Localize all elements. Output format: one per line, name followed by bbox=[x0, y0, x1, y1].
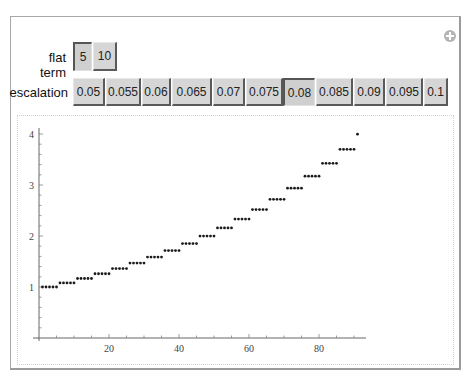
data-point bbox=[335, 162, 338, 165]
data-point bbox=[90, 277, 93, 280]
data-point bbox=[157, 256, 160, 259]
data-point bbox=[279, 198, 282, 201]
data-point bbox=[185, 242, 188, 245]
data-point bbox=[342, 148, 345, 151]
data-point bbox=[48, 286, 51, 289]
data-point bbox=[216, 226, 219, 229]
data-point bbox=[171, 249, 174, 252]
data-point bbox=[206, 235, 209, 238]
data-point bbox=[69, 282, 72, 285]
data-point bbox=[146, 256, 149, 259]
data-point bbox=[314, 175, 317, 178]
data-point bbox=[283, 198, 286, 201]
data-point bbox=[80, 277, 83, 280]
data-point bbox=[255, 208, 258, 211]
data-point bbox=[136, 262, 139, 265]
data-point bbox=[290, 187, 293, 190]
data-point bbox=[94, 272, 97, 275]
data-point bbox=[269, 198, 272, 201]
data-point bbox=[265, 208, 268, 211]
data-point bbox=[318, 175, 321, 178]
data-point bbox=[262, 208, 265, 211]
data-point bbox=[209, 235, 212, 238]
data-point bbox=[55, 286, 58, 289]
data-point bbox=[332, 162, 335, 165]
data-point bbox=[188, 242, 191, 245]
x-tick-label: 80 bbox=[314, 343, 324, 354]
data-point bbox=[237, 218, 240, 221]
data-point bbox=[304, 175, 307, 178]
y-tick-label: 2 bbox=[29, 231, 34, 242]
data-point bbox=[160, 256, 163, 259]
data-point bbox=[41, 286, 44, 289]
data-point bbox=[244, 218, 247, 221]
data-point bbox=[356, 133, 359, 136]
data-point bbox=[192, 242, 195, 245]
data-point bbox=[272, 198, 275, 201]
data-point bbox=[150, 256, 153, 259]
data-point bbox=[129, 262, 132, 265]
data-point bbox=[328, 162, 331, 165]
data-point bbox=[258, 208, 261, 211]
data-point bbox=[101, 272, 104, 275]
data-point bbox=[125, 267, 128, 270]
data-point bbox=[118, 267, 121, 270]
data-point bbox=[174, 249, 177, 252]
data-point bbox=[59, 282, 62, 285]
data-point bbox=[122, 267, 125, 270]
data-point bbox=[104, 272, 107, 275]
data-point bbox=[111, 267, 114, 270]
data-point bbox=[220, 226, 223, 229]
data-point bbox=[241, 218, 244, 221]
data-point bbox=[300, 187, 303, 190]
data-point bbox=[349, 148, 352, 151]
data-point bbox=[199, 235, 202, 238]
data-point bbox=[346, 148, 349, 151]
data-point bbox=[230, 226, 233, 229]
data-point bbox=[97, 272, 100, 275]
x-tick-label: 20 bbox=[104, 343, 114, 354]
data-point bbox=[62, 282, 65, 285]
data-point bbox=[132, 262, 135, 265]
data-point bbox=[108, 272, 111, 275]
y-tick-label: 4 bbox=[29, 129, 34, 140]
data-point bbox=[195, 242, 198, 245]
data-point bbox=[181, 242, 184, 245]
data-point bbox=[234, 218, 237, 221]
data-point bbox=[339, 148, 342, 151]
data-point bbox=[321, 162, 324, 165]
data-point bbox=[213, 235, 216, 238]
data-point bbox=[307, 175, 310, 178]
data-point bbox=[353, 148, 356, 151]
data-point bbox=[286, 187, 289, 190]
x-tick-label: 40 bbox=[174, 343, 184, 354]
data-point bbox=[178, 249, 181, 252]
data-point bbox=[66, 282, 69, 285]
data-point bbox=[52, 286, 55, 289]
data-point bbox=[167, 249, 170, 252]
data-point bbox=[227, 226, 230, 229]
data-point bbox=[45, 286, 48, 289]
data-point bbox=[87, 277, 90, 280]
data-point bbox=[153, 256, 156, 259]
data-point bbox=[143, 262, 146, 265]
data-point bbox=[139, 262, 142, 265]
data-point bbox=[325, 162, 328, 165]
y-tick-label: 3 bbox=[29, 180, 34, 191]
data-point bbox=[115, 267, 118, 270]
data-point bbox=[83, 277, 86, 280]
y-tick-label: 1 bbox=[29, 282, 34, 293]
data-point bbox=[164, 249, 167, 252]
step-scatter-plot: 204060801234 bbox=[0, 0, 469, 384]
data-point bbox=[223, 226, 226, 229]
data-point bbox=[276, 198, 279, 201]
data-point bbox=[297, 187, 300, 190]
data-point bbox=[76, 277, 79, 280]
data-point bbox=[248, 218, 251, 221]
data-point bbox=[293, 187, 296, 190]
data-point bbox=[202, 235, 205, 238]
x-tick-label: 60 bbox=[244, 343, 254, 354]
data-point bbox=[73, 282, 76, 285]
data-point bbox=[251, 208, 254, 211]
data-point bbox=[311, 175, 314, 178]
